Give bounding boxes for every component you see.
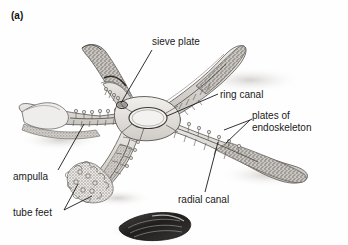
label-ampulla: ampulla — [13, 171, 48, 183]
central-disc — [114, 97, 180, 141]
label-ring-canal: ring canal — [220, 89, 263, 101]
label-plates-line1: plates of — [252, 110, 312, 122]
label-radial-canal: radial canal — [178, 194, 229, 206]
mussel-shell — [119, 213, 191, 241]
leader-sieve-plate — [121, 50, 152, 103]
label-plates-line2: endoskeleton — [252, 122, 312, 134]
leader-plates-1 — [224, 120, 250, 130]
label-plates-of-endoskeleton: plates of endoskeleton — [252, 110, 312, 133]
panel-label: (a) — [11, 10, 23, 22]
figure-panel: (a) sieve plate ring canal plates of end… — [0, 0, 348, 245]
leader-radial-canal — [205, 142, 218, 192]
ring-canal-oval — [129, 108, 167, 129]
leader-plates-2 — [226, 120, 250, 143]
label-tube-feet: tube feet — [13, 207, 52, 219]
sieve-plate-structure — [117, 101, 128, 108]
label-sieve-plate: sieve plate — [152, 36, 200, 48]
